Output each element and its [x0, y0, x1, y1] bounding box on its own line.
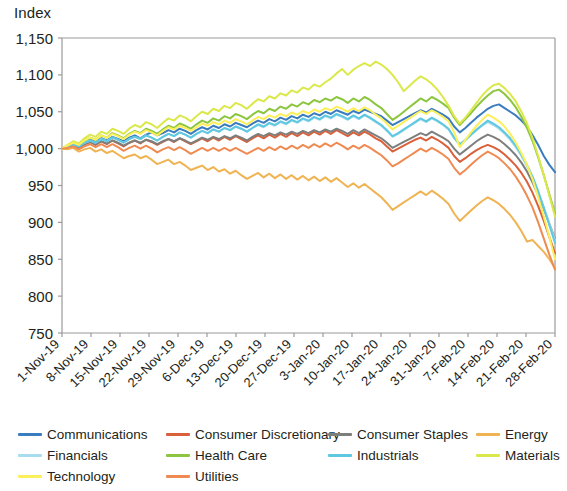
y-tick-label: 1,000: [15, 140, 53, 157]
legend-swatch-icon: [18, 454, 42, 458]
legend-item-materials[interactable]: Materials: [476, 449, 560, 463]
legend-swatch-icon: [18, 433, 42, 437]
legend-label: Utilities: [195, 470, 239, 484]
legend-swatch-icon: [18, 475, 42, 479]
legend-swatch-icon: [476, 454, 500, 458]
legend-label: Consumer Staples: [357, 428, 468, 442]
y-tick-label: 1,150: [15, 30, 53, 47]
axis-frame: [62, 38, 555, 333]
legend-swatch-icon: [166, 454, 190, 458]
legend-swatch-icon: [476, 433, 500, 437]
legend-swatch-icon: [328, 433, 352, 437]
series-line-energy: [62, 148, 555, 268]
legend-row: CommunicationsConsumer DiscretionaryCons…: [0, 424, 567, 445]
y-tick-label: 950: [28, 177, 53, 194]
series-line-utilities: [62, 143, 555, 270]
legend-row: TechnologyUtilities: [0, 466, 567, 487]
y-tick-label: 1,100: [15, 66, 53, 83]
chart-legend: CommunicationsConsumer DiscretionaryCons…: [0, 424, 567, 487]
index-line-chart: Index 7508008509009501,0001,0501,1001,15…: [0, 0, 567, 491]
legend-label: Communications: [47, 428, 148, 442]
legend-swatch-icon: [166, 433, 190, 437]
y-tick-label: 850: [28, 251, 53, 268]
plot-area: 7508008509009501,0001,0501,1001,1501-Nov…: [0, 0, 567, 424]
series-line-technology: [62, 107, 555, 260]
legend-label: Technology: [47, 470, 115, 484]
series-group: [62, 62, 555, 270]
legend-item-financials[interactable]: Financials: [18, 449, 108, 463]
legend-label: Consumer Discretionary: [195, 428, 340, 442]
legend-item-utilities[interactable]: Utilities: [166, 470, 239, 484]
series-line-health-care: [62, 90, 555, 214]
legend-label: Industrials: [357, 449, 419, 463]
y-tick-label: 800: [28, 288, 53, 305]
legend-swatch-icon: [328, 454, 352, 458]
legend-label: Energy: [505, 428, 548, 442]
legend-row: FinancialsHealth CareIndustrialsMaterial…: [0, 445, 567, 466]
legend-item-health-care[interactable]: Health Care: [166, 449, 267, 463]
legend-item-consumer-discretionary[interactable]: Consumer Discretionary: [166, 428, 340, 442]
y-tick-label: 1,050: [15, 103, 53, 120]
legend-item-consumer-staples[interactable]: Consumer Staples: [328, 428, 468, 442]
legend-item-technology[interactable]: Technology: [18, 470, 115, 484]
y-tick-label: 900: [28, 214, 53, 231]
legend-label: Financials: [47, 449, 108, 463]
legend-item-industrials[interactable]: Industrials: [328, 449, 419, 463]
legend-item-communications[interactable]: Communications: [18, 428, 148, 442]
legend-item-energy[interactable]: Energy: [476, 428, 548, 442]
legend-label: Health Care: [195, 449, 267, 463]
legend-swatch-icon: [166, 475, 190, 479]
legend-label: Materials: [505, 449, 560, 463]
